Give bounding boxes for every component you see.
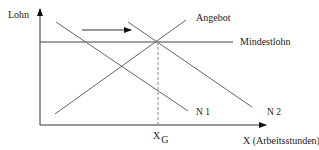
demand-curve-n2 bbox=[128, 22, 252, 107]
x-axis-label: X (Arbeitsstunden) bbox=[243, 135, 319, 147]
equilibrium-label-main: X bbox=[153, 130, 161, 141]
supply-label: Angebot bbox=[196, 12, 231, 23]
equilibrium-label: XG bbox=[153, 130, 168, 145]
y-axis-label: Lohn bbox=[8, 9, 29, 20]
demand-n2-label: N 2 bbox=[267, 107, 281, 117]
labor-market-diagram: Lohn Angebot Mindestlohn N 1 N 2 X (Arbe… bbox=[0, 0, 319, 150]
equilibrium-label-sub: G bbox=[161, 134, 168, 145]
demand-n1-label: N 1 bbox=[196, 107, 210, 117]
min-wage-label: Mindestlohn bbox=[240, 36, 291, 47]
